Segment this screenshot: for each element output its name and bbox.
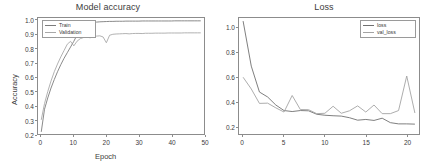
y-tick-mark: [35, 77, 37, 78]
y-tick-label: 0.5: [15, 88, 34, 95]
x-tick-mark: [242, 135, 243, 137]
y-tick-label: 0.8: [216, 49, 235, 56]
x-tick-mark: [407, 135, 408, 137]
y-tick-mark: [35, 135, 37, 136]
y-tick-mark: [236, 27, 238, 28]
x-tick-mark: [205, 135, 206, 137]
legend-item-validation[interactable]: Validation: [45, 29, 92, 36]
y-tick-mark: [35, 91, 37, 92]
legend-item-loss[interactable]: loss: [363, 22, 412, 29]
y-tick-mark: [236, 127, 238, 128]
y-tick-mark: [236, 102, 238, 103]
y-tick-label: 0.9: [15, 31, 34, 38]
x-tick-label: 10: [321, 139, 328, 146]
x-tick-mark: [283, 135, 284, 137]
y-tick-mark: [35, 48, 37, 49]
legend-item-train[interactable]: Train: [45, 22, 92, 29]
x-tick-mark: [40, 135, 41, 137]
x-tick-label: 20: [404, 139, 411, 146]
y-tick-mark: [236, 77, 238, 78]
panel-loss: Loss 0.20.40.60.81.0 05101520 loss val_l…: [216, 0, 432, 167]
y-tick-mark: [35, 120, 37, 121]
series-line-val-loss: [243, 76, 415, 114]
legend-label-loss: loss: [377, 22, 386, 29]
chart-title-left: Model accuracy: [0, 2, 216, 12]
y-tick-label: 0.4: [15, 103, 34, 110]
legend-swatch-loss: [363, 25, 374, 26]
y-tick-label: 0.4: [216, 99, 235, 106]
legend-label-train: Train: [59, 22, 71, 29]
chart-title-right: Loss: [216, 2, 432, 12]
y-tick-label: 0.6: [15, 74, 34, 81]
x-tick-label: 40: [168, 139, 175, 146]
y-tick-label: 0.6: [216, 74, 235, 81]
y-tick-label: 1.0: [216, 24, 235, 31]
x-tick-label: 30: [135, 139, 142, 146]
legend-label-validation: Validation: [59, 29, 81, 36]
x-tick-label: 0: [38, 139, 42, 146]
legend-swatch-validation: [45, 32, 56, 33]
y-tick-mark: [35, 34, 37, 35]
legend-item-val-loss[interactable]: val_loss: [363, 29, 412, 36]
y-tick-mark: [35, 63, 37, 64]
x-tick-label: 15: [363, 139, 370, 146]
legend-swatch-train: [45, 25, 56, 26]
x-tick-mark: [172, 135, 173, 137]
x-tick-label: 5: [282, 139, 286, 146]
y-tick-label: 0.7: [15, 60, 34, 67]
y-tick-mark: [35, 19, 37, 20]
x-tick-label: 0: [240, 139, 244, 146]
x-tick-label: 50: [201, 139, 208, 146]
x-tick-mark: [106, 135, 107, 137]
legend-label-val-loss: val_loss: [377, 29, 396, 36]
legend-right[interactable]: loss val_loss: [360, 20, 416, 38]
figure-root: Model accuracy Accuracy Epoch 0.20.30.40…: [0, 0, 432, 167]
x-tick-label: 20: [103, 139, 110, 146]
x-axis-label-left: Epoch: [95, 152, 116, 161]
legend-swatch-val-loss: [363, 32, 374, 33]
x-tick-mark: [139, 135, 140, 137]
y-tick-label: 0.3: [15, 117, 34, 124]
x-tick-mark: [324, 135, 325, 137]
x-tick-label: 10: [70, 139, 77, 146]
x-tick-mark: [73, 135, 74, 137]
y-tick-label: 0.2: [15, 132, 34, 139]
y-tick-mark: [236, 52, 238, 53]
x-tick-mark: [366, 135, 367, 137]
y-tick-label: 1.0: [15, 16, 34, 23]
y-tick-label: 0.8: [15, 45, 34, 52]
y-tick-label: 0.2: [216, 124, 235, 131]
legend-left[interactable]: Train Validation: [42, 20, 96, 38]
y-tick-mark: [35, 106, 37, 107]
panel-model-accuracy: Model accuracy Accuracy Epoch 0.20.30.40…: [0, 0, 216, 167]
series-line-validation: [41, 33, 200, 120]
